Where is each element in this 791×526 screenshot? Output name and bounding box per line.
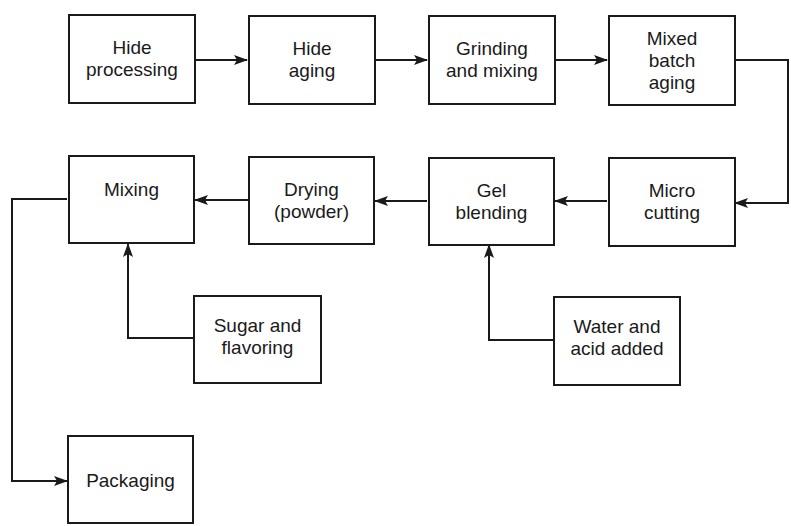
flowchart: Hide processing Hide aging Grinding and … (0, 0, 791, 526)
edge-water-acid-to-gel-blending (489, 245, 553, 340)
node-label: Mixing (104, 179, 159, 201)
node-label: Micro cutting (644, 180, 700, 224)
node-sugar-and-flavoring: Sugar and flavoring (193, 295, 322, 384)
edge-mixing-to-packaging (12, 199, 67, 481)
node-hide-aging: Hide aging (248, 15, 376, 105)
node-hide-processing: Hide processing (68, 14, 196, 104)
node-mixing: Mixing (68, 155, 195, 244)
node-drying-powder: Drying (powder) (248, 156, 375, 245)
edge-sugar-flavoring-to-mixing (128, 244, 194, 338)
node-label: Drying (powder) (274, 179, 349, 223)
node-mixed-batch-aging: Mixed batch aging (608, 15, 736, 106)
node-micro-cutting: Micro cutting (608, 157, 736, 247)
node-packaging: Packaging (67, 435, 194, 524)
node-grinding-and-mixing: Grinding and mixing (428, 15, 556, 105)
node-label: Hide aging (289, 38, 336, 82)
node-label: Water and acid added (571, 316, 664, 360)
node-water-and-acid-added: Water and acid added (553, 296, 681, 386)
node-label: Packaging (86, 470, 175, 492)
node-gel-blending: Gel blending (428, 157, 555, 246)
node-label: Mixed batch aging (647, 28, 698, 94)
edge-mixed-batch-to-micro-cutting (735, 60, 788, 203)
node-label: Hide processing (86, 37, 178, 81)
node-label: Sugar and flavoring (214, 315, 302, 359)
node-label: Grinding and mixing (446, 38, 538, 82)
node-label: Gel blending (456, 180, 528, 224)
